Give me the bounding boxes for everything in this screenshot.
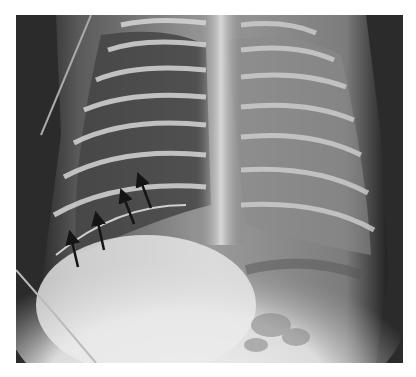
xray-image: [16, 15, 403, 363]
xray-illustration: [16, 15, 403, 363]
